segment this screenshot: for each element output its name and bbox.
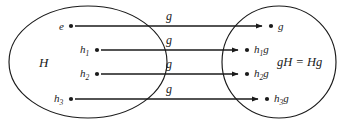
right-element-label-3: h2g <box>254 68 269 82</box>
right-point-2 <box>245 48 249 52</box>
right-element-label-1: g <box>278 21 284 35</box>
right-point-4 <box>265 97 269 101</box>
right-set-label: gH = Hg <box>277 56 322 69</box>
edge-label-2: g <box>166 34 172 46</box>
right-point-3 <box>245 72 249 76</box>
left-element-base-1: e <box>59 20 64 32</box>
left-point-1 <box>69 24 73 28</box>
left-point-3 <box>95 72 99 76</box>
left-set-boundary <box>9 6 167 118</box>
right-point-1 <box>269 24 273 28</box>
left-element-label-2: h1 <box>80 44 89 58</box>
coset-diagram: H gH = Hg e h1 h2 h3 g h1g h2g h3g g g g… <box>0 0 344 123</box>
left-element-label-4: h3 <box>54 93 63 107</box>
left-element-sub-4: 3 <box>60 98 64 107</box>
edge-label-4: g <box>166 83 172 95</box>
left-element-sub-3: 2 <box>86 73 90 82</box>
left-element-label-1: e <box>59 21 64 32</box>
left-element-sub-2: 1 <box>86 49 90 58</box>
right-element-suffix-4: g <box>283 92 289 104</box>
edge-label-3: g <box>166 58 172 70</box>
edge-label-1: g <box>166 10 172 22</box>
right-element-label-4: h3g <box>274 93 289 107</box>
left-element-label-3: h2 <box>80 68 89 82</box>
left-point-2 <box>95 48 99 52</box>
left-point-4 <box>69 97 73 101</box>
right-element-base-1: g <box>278 20 284 32</box>
right-element-suffix-2: g <box>263 43 269 55</box>
right-element-suffix-3: g <box>263 67 269 79</box>
left-set-label: H <box>39 56 48 69</box>
right-element-label-2: h1g <box>254 44 269 58</box>
